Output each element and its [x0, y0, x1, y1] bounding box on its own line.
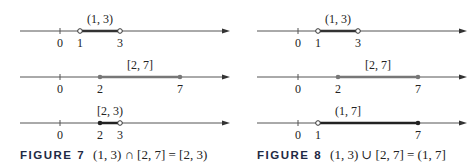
tick-label: 2 [97, 82, 103, 97]
number-line-1 [20, 28, 230, 34]
tick-label: 7 [415, 128, 421, 143]
tick-label: 1 [77, 36, 83, 51]
tick-label: 3 [117, 128, 123, 143]
figure-number: FIGURE 7 [20, 149, 85, 161]
interval-label: (1, 7] [335, 104, 361, 119]
number-line-2 [257, 74, 467, 80]
interval-label: (1, 3) [325, 12, 351, 27]
tick-label: 7 [177, 82, 183, 97]
tick-label: 3 [117, 36, 123, 51]
interval-label: [2, 7] [365, 58, 391, 73]
figure-8-panel: (1, 3) 0 1 3 [2, 7] 0 2 7 (1, 7] 0 1 7 F… [237, 0, 474, 167]
number-line-1 [257, 28, 467, 34]
tick-label: 0 [57, 128, 63, 143]
tick-label: 0 [57, 82, 63, 97]
number-line-2 [20, 74, 230, 80]
tick-label: 2 [97, 128, 103, 143]
figure-caption: FIGURE 8(1, 3) ∪ [2, 7] = (1, 7] [257, 147, 446, 163]
number-line-3 [20, 120, 230, 126]
interval-label: [2, 7] [127, 58, 153, 73]
tick-label: 0 [295, 82, 301, 97]
tick-label: 1 [315, 128, 321, 143]
figure-caption-text: (1, 3) ∩ [2, 7] = [2, 3) [93, 147, 207, 162]
tick-label: 0 [295, 128, 301, 143]
number-line-3 [257, 120, 467, 126]
tick-label: 3 [355, 36, 361, 51]
tick-label: 0 [57, 36, 63, 51]
figure-caption-text: (1, 3) ∪ [2, 7] = (1, 7] [330, 147, 446, 162]
figure-8-number-lines [237, 0, 474, 167]
tick-label: 0 [295, 36, 301, 51]
tick-label: 7 [415, 82, 421, 97]
tick-label: 2 [335, 82, 341, 97]
interval-label: (1, 3) [87, 12, 113, 27]
interval-label: [2, 3) [97, 104, 123, 119]
figure-7-panel: (1, 3) 0 1 3 [2, 7] 0 2 7 [2, 3) 0 2 3 F… [0, 0, 237, 167]
figure-caption: FIGURE 7(1, 3) ∩ [2, 7] = [2, 3) [20, 147, 207, 163]
figure-number: FIGURE 8 [257, 149, 322, 161]
tick-label: 1 [315, 36, 321, 51]
